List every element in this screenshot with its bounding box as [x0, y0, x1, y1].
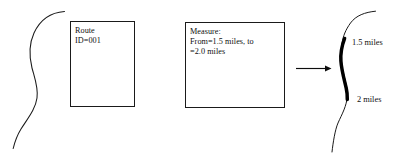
highlighted-measure-segment [341, 39, 348, 100]
diagram-canvas: Route ID=001 Measure: From=1.5 miles, to… [0, 0, 403, 157]
measure-attribute-box-text: Measure: From=1.5 miles, to =2.0 miles [190, 27, 284, 58]
route-attribute-box-text: Route ID=001 [75, 26, 133, 46]
to-measure-label: 2 miles [357, 95, 381, 104]
output-route-polyline [332, 11, 376, 152]
process-arrow-head [325, 65, 332, 71]
process-arrow [296, 65, 332, 71]
from-measure-label: 1.5 miles [352, 38, 383, 47]
input-route-polyline [13, 12, 64, 149]
